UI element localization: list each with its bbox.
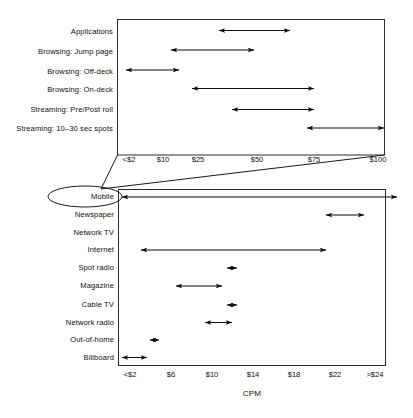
tick-label-top-0: <$2 [123, 155, 136, 164]
tick-label-bottom-1: $6 [167, 370, 175, 379]
category-label-internet: Internet [87, 245, 114, 254]
tick-label-bottom-4: $18 [288, 370, 301, 379]
category-label-browsing-on-deck: Browsing: On-deck [47, 85, 113, 94]
tick-label-bottom-3: $14 [247, 370, 260, 379]
category-label-network-tv: Network TV [73, 228, 114, 237]
category-label-spot-radio: Spot radio [78, 263, 114, 272]
category-label-mobile: Mobile [91, 192, 114, 201]
category-label-browsing-off-deck: Browsing: Off-deck [47, 67, 113, 76]
category-label-newspaper: Newspaper [75, 210, 115, 219]
category-label-network-radio: Network radio [66, 318, 114, 327]
tick-label-top-2: $25 [192, 155, 205, 164]
x-axis-title: CPM [243, 389, 262, 398]
category-label-streaming-spots: Streaming: 10–30 sec spots [16, 124, 113, 133]
callout-connector [101, 155, 385, 189]
category-label-browsing-jump-page: Browsing: Jump page [38, 47, 113, 56]
tick-label-bottom-2: $10 [206, 370, 219, 379]
tick-label-bottom-5: $22 [329, 370, 342, 379]
figure-container: Applications Browsing: Jump page Browsin… [0, 0, 413, 418]
tick-label-bottom-0: <$2 [124, 370, 137, 379]
category-label-streaming-pre-post-roll: Streaming: Pre/Post roll [30, 105, 113, 114]
range-arrows-top [126, 31, 384, 129]
category-labels-top: Applications Browsing: Jump page Browsin… [16, 27, 113, 133]
tick-label-top-1: $10 [157, 155, 170, 164]
category-labels-bottom: Mobile Newspaper Network TV Internet Spo… [66, 192, 115, 362]
category-label-billboard: Billboard [84, 353, 114, 362]
x-axis-ticks-bottom: <$2 $6 $10 $14 $18 $22 >$24 [124, 370, 384, 379]
chart-frame-bottom [119, 190, 386, 366]
figure-svg: Applications Browsing: Jump page Browsin… [0, 0, 413, 418]
category-label-out-of-home: Out-of-home [70, 335, 114, 344]
chart-frame-top [118, 20, 385, 156]
chart-mobile-detail: Applications Browsing: Jump page Browsin… [16, 20, 386, 165]
category-label-cable-tv: Cable TV [82, 300, 115, 309]
connector-line-right [101, 155, 385, 189]
category-label-applications: Applications [71, 27, 113, 36]
tick-label-top-3: $50 [251, 155, 264, 164]
range-arrows-bottom [122, 197, 397, 358]
category-label-magazine: Magazine [80, 281, 114, 290]
chart-media-comparison: Mobile Newspaper Network TV Internet Spo… [48, 186, 397, 398]
tick-label-bottom-6: >$24 [366, 370, 383, 379]
connector-line-left [101, 155, 118, 189]
